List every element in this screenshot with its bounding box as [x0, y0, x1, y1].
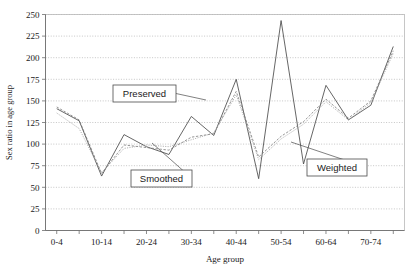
- callout-label-preserved: Preserved: [123, 88, 166, 99]
- y-tick-label-175: 175: [26, 75, 40, 85]
- series-line-smoothed: [57, 51, 394, 174]
- y-tick-label-25: 25: [31, 204, 41, 214]
- y-tick-label-150: 150: [26, 96, 40, 106]
- x-tick-label-60-64: 60-64: [315, 237, 336, 247]
- leader-line-preserved: [176, 94, 206, 101]
- data-series-layer: [57, 21, 394, 179]
- x-tick-label-0-4: 0-4: [51, 237, 63, 247]
- x-tick-label-40-44: 40-44: [226, 237, 247, 247]
- gridlines: [46, 15, 405, 231]
- series-line-preserved: [57, 21, 394, 179]
- y-tick-label-0: 0: [35, 226, 40, 236]
- x-tick-label-10-14: 10-14: [91, 237, 112, 247]
- y-tick-label-75: 75: [31, 161, 41, 171]
- chart-container: 0255075100125150175200225250 0-410-1420-…: [0, 0, 413, 272]
- callout-label-weighted: Weighted: [317, 162, 357, 173]
- y-tick-label-225: 225: [26, 31, 40, 41]
- x-axis-title: Age group: [206, 254, 245, 264]
- y-tick-label-250: 250: [26, 10, 40, 20]
- y-axis-title: Sex ratio in age group: [4, 85, 14, 160]
- x-axis-ticks: 0-410-1420-2430-3440-4450-5460-6470-74: [51, 231, 394, 247]
- y-tick-label-100: 100: [26, 139, 40, 149]
- y-tick-label-50: 50: [31, 183, 41, 193]
- x-tick-label-20-24: 20-24: [136, 237, 157, 247]
- annotation-callouts: PreservedSmoothedWeighted: [113, 85, 367, 187]
- sex-ratio-line-chart: 0255075100125150175200225250 0-410-1420-…: [0, 0, 413, 272]
- y-axis-ticks: 0255075100125150175200225250: [26, 10, 46, 236]
- x-tick-label-50-54: 50-54: [271, 237, 292, 247]
- x-tick-label-30-34: 30-34: [181, 237, 202, 247]
- callout-label-smoothed: Smoothed: [140, 173, 183, 184]
- x-tick-label-70-74: 70-74: [360, 237, 381, 247]
- y-tick-label-125: 125: [26, 118, 40, 128]
- y-tick-label-200: 200: [26, 53, 40, 63]
